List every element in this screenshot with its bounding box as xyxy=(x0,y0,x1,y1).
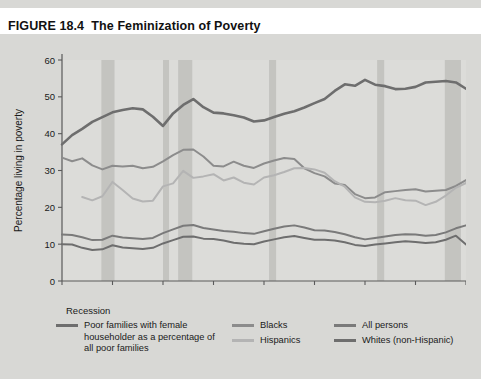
figure-title: The Feminization of Poverty xyxy=(91,19,260,33)
figure-number: FIGURE 18.4 xyxy=(8,19,84,33)
x-axis-tick-label: 2005 xyxy=(405,287,426,290)
y-axis-tick-label: 60 xyxy=(44,55,55,66)
page-title: FIGURE 18.4 The Feminization of Poverty xyxy=(8,19,261,33)
legend-item-label: Hispanics xyxy=(260,335,300,347)
legend-item-label: All persons xyxy=(362,320,408,332)
legend-item: Poor families with female householder as… xyxy=(56,320,226,355)
y-axis-tick-label: 30 xyxy=(44,165,55,176)
legend-swatch-icon xyxy=(232,339,254,342)
legend-item: Blacks xyxy=(232,320,327,332)
legend-swatch-icon xyxy=(334,324,356,327)
y-axis-title: Percentage living in poverty xyxy=(13,109,24,232)
y-axis-tick-label: 0 xyxy=(50,276,55,287)
figure-container: FIGURE 18.4 The Feminization of Poverty … xyxy=(0,0,481,379)
legend-item: Whites (non-Hispanic) xyxy=(334,335,479,347)
figure-title-band: FIGURE 18.4 The Feminization of Poverty xyxy=(0,8,481,34)
recession-band xyxy=(178,60,192,281)
legend-item-label: Whites (non-Hispanic) xyxy=(362,335,453,347)
x-axis-tick-label: 1995 xyxy=(304,287,325,290)
y-axis-tick-label: 40 xyxy=(44,128,55,139)
y-axis-tick-label: 50 xyxy=(44,91,55,102)
recession-band xyxy=(163,60,169,281)
x-axis-tick-label: 1975 xyxy=(102,287,123,290)
y-axis-tick-label: 20 xyxy=(44,202,55,213)
chart-plot-area: 0102030405060197019751980198519901995200… xyxy=(0,40,481,290)
legend-item: All persons xyxy=(334,320,479,332)
legend-item: Hispanics xyxy=(232,335,327,347)
recession-band xyxy=(377,60,384,281)
legend-item-label: Poor families with female householder as… xyxy=(84,320,226,355)
x-axis-tick-label: 1990 xyxy=(253,287,274,290)
legend-item-label: Blacks xyxy=(260,320,287,332)
legend-column-3: All personsWhites (non-Hispanic) xyxy=(334,320,479,349)
chart-legend: Recession Poor families with female hous… xyxy=(0,302,481,379)
legend-swatch-icon xyxy=(232,324,254,327)
legend-column-1: Poor families with female householder as… xyxy=(56,320,226,358)
x-axis-tick-label: 2000 xyxy=(354,287,375,290)
line-chart: 0102030405060197019751980198519901995200… xyxy=(0,40,481,290)
legend-recession-label: Recession xyxy=(66,305,110,316)
recession-band xyxy=(445,60,461,281)
x-axis-tick-label: 1970 xyxy=(51,287,72,290)
x-axis-tick-label: 1980 xyxy=(152,287,173,290)
plot-right-mask xyxy=(466,40,481,290)
y-axis-tick-label: 10 xyxy=(44,239,55,250)
legend-column-2: BlacksHispanics xyxy=(232,320,327,349)
x-axis-tick-label: 1985 xyxy=(203,287,224,290)
recession-band xyxy=(269,60,276,281)
legend-swatch-icon xyxy=(334,339,356,342)
legend-swatch-icon xyxy=(56,324,78,327)
